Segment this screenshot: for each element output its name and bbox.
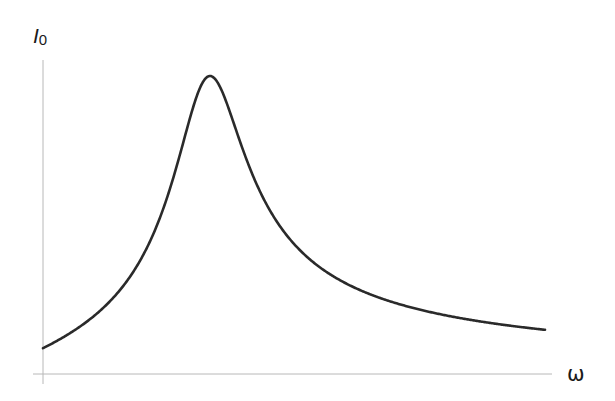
y-axis-label-subscript: 0 — [39, 31, 47, 48]
y-axis-label-main: I — [33, 24, 39, 47]
y-axis-label: I0 — [33, 24, 47, 48]
x-axis-label: ω — [567, 362, 585, 386]
resonance-chart — [0, 0, 615, 401]
resonance-curve — [43, 76, 545, 348]
